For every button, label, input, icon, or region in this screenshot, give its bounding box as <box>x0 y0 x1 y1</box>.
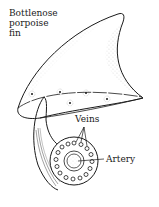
blood-vessel-cross-section <box>50 137 98 185</box>
fin-shape <box>18 13 143 118</box>
diagram-canvas: Bottlenose porpoise fin <box>0 0 159 207</box>
fin-illustration <box>0 0 159 207</box>
artery-label: Artery <box>106 155 135 164</box>
veins-label: Veins <box>75 115 99 124</box>
